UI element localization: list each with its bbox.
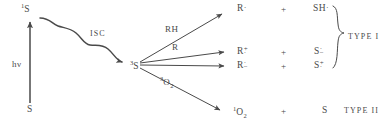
product-row-3-left: R · − [237,61,249,71]
reactant-electron-donor-label: R [172,43,178,52]
product-3-right-radical-dot: · [320,64,323,71]
type-one-label: TYPE I [348,33,379,41]
product-3-left-charge: − [244,64,248,71]
product-row-3-plus: + [281,62,286,71]
product-3-left-charge-stack: · − [244,61,249,70]
excited-singlet-label: 1S [21,3,30,15]
triplet-oxygen-subscript: 2 [170,82,173,89]
ground-state-label: S [27,105,33,115]
product-row-2-plus: + [281,48,286,57]
photon-label: hν [12,60,21,69]
product-2-right-charge: − [320,50,324,57]
product-2-right-charge-stack: · − [320,47,325,56]
product-3-right-charge-stack: + · [320,61,325,70]
product-row-1-right: SH· [313,4,329,14]
isc-label: ISC [90,30,106,38]
product-row-3-right: S + · [314,61,325,71]
product-row-1-left: R· [237,4,247,14]
excited-singlet-base: S [24,4,30,14]
type-two-partner-label: S [322,106,328,116]
triplet-state-label: 3S [130,60,139,72]
branch-arrow-type1-electron-cation [140,52,224,63]
singlet-oxygen-base: O [236,107,243,117]
branch-arrow-type2-oxygen [140,68,220,110]
type-two-row-plus: + [281,107,286,116]
reactant-triplet-oxygen-label: 3O2 [160,76,173,89]
type-one-brace [333,6,344,68]
singlet-oxygen-subscript: 2 [244,112,247,119]
product-2-left-base: R [237,46,244,56]
product-1-right-radical-dot: · [326,3,329,12]
branch-arrow-type1-hydrogen [140,14,222,62]
product-1-left-base: R [237,3,244,13]
photosensitization-diagram: 1S hν S ISC 3S RH R 3O2 R· + SH· R + · +… [0,0,380,127]
product-row-2-right: S · − [314,47,325,57]
branch-arrow-type1-electron-anion [140,65,224,66]
product-1-right-base: SH [313,3,326,13]
product-2-left-charge-stack: + · [244,47,249,56]
product-2-left-radical-dot: · [244,50,247,57]
product-1-left-radical-dot: · [244,3,247,12]
product-3-left-base: R [237,60,244,70]
product-row-1-plus: + [281,5,286,14]
reactant-hydrogen-donor-label: RH [165,25,178,34]
singlet-oxygen-label: 1O2 [233,106,247,120]
type-two-label: TYPE II [344,107,379,115]
isc-wavy-arrow [40,18,122,62]
triplet-base: S [133,61,139,71]
product-row-2-left: R + · [237,47,249,57]
